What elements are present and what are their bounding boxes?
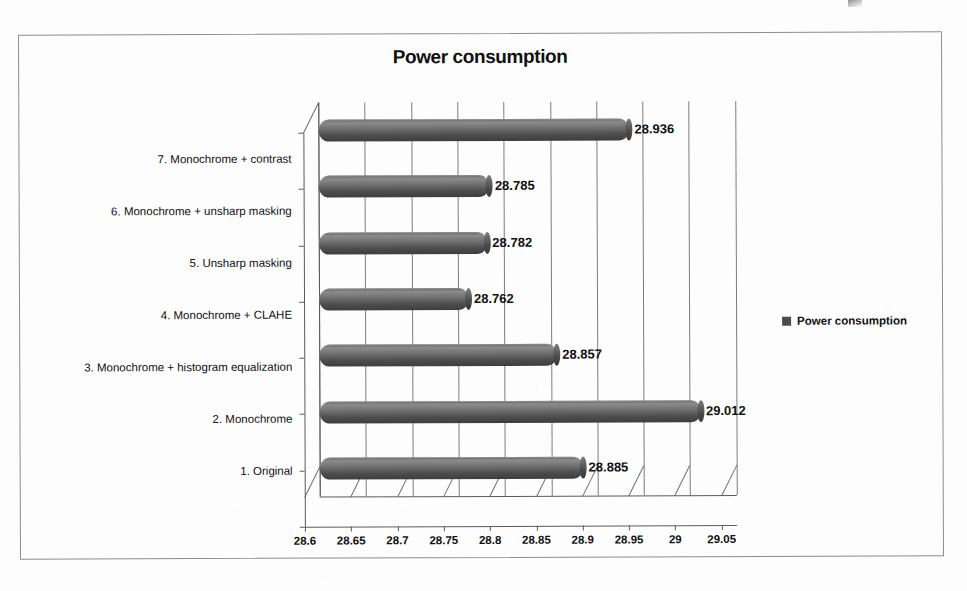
- bar-value-label: 29.012: [706, 404, 746, 418]
- x-axis-line: [305, 525, 737, 528]
- x-axis-tick-label: 28.8: [479, 534, 501, 546]
- x-axis-tick-label: 29.05: [707, 533, 736, 545]
- x-axis-tick-label: 28.65: [337, 534, 366, 546]
- x-gridline: [689, 101, 692, 495]
- x-axis-tick-label: 29: [669, 533, 682, 545]
- x-axis-tick-label: 28.95: [615, 533, 644, 545]
- category-label: 2. Monochrome: [50, 412, 292, 427]
- category-label: 5. Unsharp masking: [50, 256, 292, 271]
- y-axis-tick: [300, 470, 305, 471]
- bar[interactable]: [319, 400, 701, 423]
- bar[interactable]: [319, 288, 469, 311]
- category-label: 4. Monochrome + CLAHE: [50, 308, 292, 323]
- bar[interactable]: [320, 456, 584, 479]
- x-gridline: [550, 102, 553, 496]
- legend-swatch-icon: [782, 316, 791, 325]
- bar-value-label: 28.885: [589, 460, 629, 474]
- chart-frame: Power consumption 28.628.6528.728.7528.8…: [18, 31, 944, 560]
- y-axis-tick: [300, 527, 305, 528]
- x-axis-tick-label: 28.7: [386, 534, 408, 546]
- x-axis-tick-label: 28.85: [522, 534, 551, 546]
- category-label: 1. Original: [51, 464, 293, 479]
- axis-corner-depth-line: [303, 103, 319, 133]
- x-gridline: [642, 101, 645, 495]
- y-axis-tick: [299, 302, 304, 303]
- y-axis-line: [303, 133, 306, 527]
- y-axis-tick: [298, 133, 303, 134]
- y-axis-tick: [299, 245, 304, 246]
- bar[interactable]: [319, 232, 488, 255]
- x-axis-tick-label: 28.6: [294, 535, 316, 547]
- bar-value-label: 28.936: [634, 122, 674, 136]
- category-label: 6. Monochrome + unsharp masking: [50, 204, 292, 219]
- scan-artifact: [848, 0, 862, 7]
- y-axis-tick: [299, 358, 304, 359]
- category-label: 7. Monochrome + contrast: [49, 152, 291, 167]
- bar-value-label: 28.782: [492, 236, 532, 250]
- bar[interactable]: [319, 175, 490, 198]
- depth-connector-line: [721, 465, 737, 495]
- depth-connector-line: [304, 467, 320, 497]
- x-axis-tick-label: 28.9: [572, 534, 594, 546]
- depth-connector-line: [628, 466, 644, 496]
- bar[interactable]: [318, 119, 629, 142]
- x-axis-back-line: [320, 495, 737, 498]
- x-gridline: [735, 101, 738, 495]
- bar-value-label: 28.857: [562, 348, 602, 362]
- bar-value-label: 28.785: [495, 179, 535, 193]
- chart-legend: Power consumption: [782, 314, 907, 326]
- bar[interactable]: [319, 344, 557, 367]
- y-axis-tick: [299, 414, 304, 415]
- bar-value-label: 28.762: [474, 292, 514, 306]
- x-gridline: [596, 102, 599, 496]
- legend-label: Power consumption: [797, 314, 907, 326]
- plot-area: 28.628.6528.728.7528.828.8528.928.952929…: [19, 32, 943, 559]
- x-axis-tick-label: 28.75: [429, 534, 458, 546]
- depth-connector-line: [675, 465, 691, 495]
- y-axis-tick: [299, 189, 304, 190]
- category-label: 3. Monochrome + histogram equalization: [50, 360, 292, 375]
- scanned-page: Power consumption 28.628.6528.728.7528.8…: [0, 0, 967, 591]
